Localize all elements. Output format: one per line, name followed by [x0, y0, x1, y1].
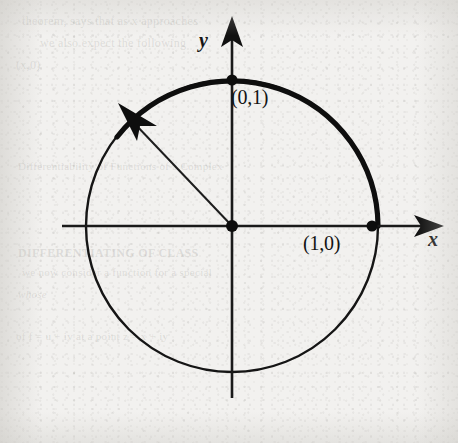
y-axis-label: y [199, 29, 208, 52]
point-1-0-marker [367, 221, 378, 232]
arc-direction-arrow-icon [118, 103, 157, 141]
point-0-1-marker [227, 75, 238, 86]
radius-vector-line [135, 124, 232, 226]
point-1-0-label: (1,0) [303, 232, 340, 255]
figure-root: theorem, says that as x approaches we al… [0, 0, 458, 443]
origin-point-marker [226, 220, 238, 232]
unit-circle-plot [0, 0, 458, 443]
point-0-1-label: (0,1) [231, 86, 268, 109]
x-axis-label: x [428, 228, 438, 251]
